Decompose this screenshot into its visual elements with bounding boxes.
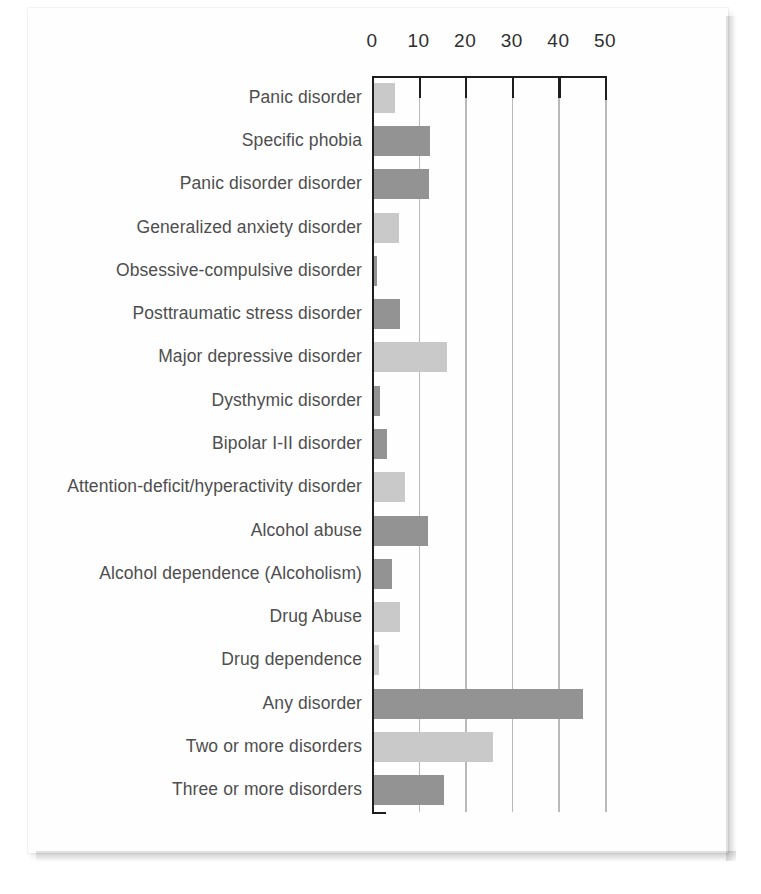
bar <box>372 342 447 372</box>
bar <box>372 213 399 243</box>
bar <box>372 689 583 719</box>
category-label: Three or more disorders <box>172 779 362 800</box>
category-label: Bipolar I-II disorder <box>212 433 362 454</box>
bar <box>372 775 444 805</box>
x-tick-label-10: 10 <box>397 30 441 52</box>
bar <box>372 169 429 199</box>
y-axis-line <box>372 76 374 814</box>
category-label: Panic disorder <box>249 87 362 108</box>
x-tick-label-50: 50 <box>583 30 627 52</box>
category-label: Any disorder <box>263 693 362 714</box>
category-label: Specific phobia <box>242 130 362 151</box>
x-tick-label-40: 40 <box>536 30 580 52</box>
bar <box>372 472 405 502</box>
category-label: Major depressive disorder <box>158 346 362 367</box>
bar <box>372 602 400 632</box>
bar <box>372 299 400 329</box>
y-axis-foot-serif <box>372 812 386 814</box>
bar <box>372 83 395 113</box>
category-label: Generalized anxiety disorder <box>136 217 362 238</box>
bar <box>372 516 428 546</box>
x-tick-mark-40 <box>558 76 560 98</box>
bar <box>372 559 392 589</box>
x-tick-mark-50 <box>605 76 607 100</box>
x-tick-label-20: 20 <box>443 30 487 52</box>
x-tick-label-0: 0 <box>350 30 394 52</box>
x-tick-mark-10 <box>419 76 421 98</box>
bar <box>372 732 493 762</box>
category-label: Posttraumatic stress disorder <box>132 303 362 324</box>
category-label: Two or more disorders <box>186 736 362 757</box>
category-label: Attention-deficit/hyperactivity disorder <box>67 476 362 497</box>
category-label: Dysthymic disorder <box>211 390 362 411</box>
category-label: Panic disorder disorder <box>180 173 362 194</box>
x-tick-mark-30 <box>512 76 514 98</box>
category-label: Alcohol abuse <box>251 520 362 541</box>
category-label: Obsessive-compulsive disorder <box>116 260 362 281</box>
x-axis-line <box>372 76 607 78</box>
category-label: Drug dependence <box>221 649 362 670</box>
x-tick-label-30: 30 <box>490 30 534 52</box>
bar <box>372 126 430 156</box>
category-label: Alcohol dependence (Alcoholism) <box>99 563 362 584</box>
category-label: Drug Abuse <box>270 606 362 627</box>
gridline-50 <box>605 76 607 812</box>
x-tick-mark-20 <box>465 76 467 98</box>
bar-chart: 01020304050 Panic disorderSpecific phobi… <box>0 0 761 894</box>
